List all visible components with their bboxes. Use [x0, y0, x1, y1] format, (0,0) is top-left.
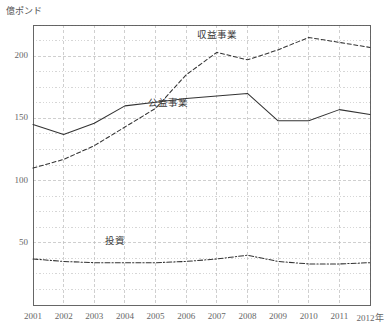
plot-frame — [33, 25, 370, 305]
x-tick-label: 2001 — [16, 311, 50, 321]
chart-container: 億ポンド 50100150200 20012002200320042005200… — [0, 0, 392, 331]
series-label-2: 公益事業 — [148, 95, 188, 109]
x-tick-label: 2003 — [77, 311, 111, 321]
y-tick-label: 200 — [2, 50, 28, 60]
x-tick-label: 2007 — [200, 311, 234, 321]
x-tick-label: 2010 — [292, 311, 326, 321]
series-label-3: 投資 — [105, 233, 125, 247]
series-line-3 — [33, 255, 370, 264]
y-tick-label: 100 — [2, 175, 28, 185]
series-label-1: 収益事業 — [197, 27, 237, 41]
x-tick-label: 2009 — [261, 311, 295, 321]
x-tick-label: 2011 — [322, 311, 356, 321]
y-tick-label: 150 — [2, 112, 28, 122]
x-tick-label: 2002 — [47, 311, 81, 321]
x-tick-label: 2006 — [169, 311, 203, 321]
x-tick-label: 2008 — [230, 311, 264, 321]
x-tick-label: 2004 — [108, 311, 142, 321]
y-tick-label: 50 — [2, 237, 28, 247]
x-tick-label: 2012年 — [353, 311, 387, 324]
series-line-1 — [33, 37, 370, 168]
plot-area — [0, 0, 392, 331]
x-tick-label: 2005 — [139, 311, 173, 321]
series-line-2 — [33, 93, 370, 134]
